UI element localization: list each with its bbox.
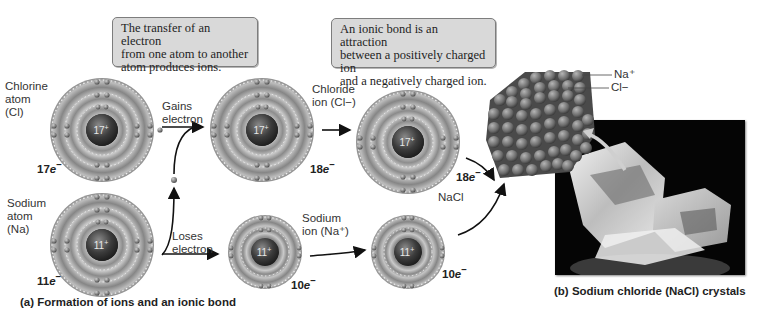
count: 18 xyxy=(310,163,323,175)
ionic-bond-diagram: The transfer of an electron from one ato… xyxy=(0,0,763,314)
sodium-atom-label: Sodium atom (Na) xyxy=(7,197,46,236)
sign: − xyxy=(310,275,316,286)
chloride-ion-label: Chloride ion (Cl−) xyxy=(312,83,356,109)
chloride-electron-count: 18e− xyxy=(310,159,335,175)
sign: − xyxy=(56,159,62,170)
label-line: (Cl) xyxy=(5,106,48,119)
caption-a: (a) Formation of ions and an ionic bond xyxy=(20,296,236,308)
transferred-electron-icon xyxy=(171,177,177,183)
label-line: ion (Na⁺) xyxy=(302,225,349,238)
count: 10 xyxy=(442,268,455,280)
label-line: atom xyxy=(7,210,46,223)
label-line: Loses xyxy=(172,230,213,243)
sodium-electron-count: 11e− xyxy=(37,271,61,287)
label-line: Chloride xyxy=(312,83,356,96)
label-line: (Na) xyxy=(7,223,46,236)
nacl-sodium-electron-count: 10e− xyxy=(442,264,467,280)
count: 18 xyxy=(456,171,469,183)
caption-b: (b) Sodium chloride (NaCl) crystals xyxy=(554,285,746,297)
label-line: electron xyxy=(162,113,203,126)
loses-electron-label: Loses electron xyxy=(172,230,213,256)
label-line: Sodium xyxy=(302,212,349,225)
count: 11 xyxy=(37,275,49,287)
count: 17 xyxy=(37,163,50,175)
nacl-chloride-electron-count: 18e− xyxy=(456,167,481,183)
sodium-to-lattice-arrow xyxy=(458,184,504,235)
label-line: Chlorine xyxy=(5,80,48,93)
diagram-graphics: 17+ 11+ 17+ 11+ 17+ 11+ xyxy=(0,0,763,314)
sign: − xyxy=(329,159,335,170)
gains-electron-label: Gains electron xyxy=(162,100,203,126)
lattice-cl-label: Cl− xyxy=(611,81,629,94)
sign: − xyxy=(475,167,481,178)
sign: − xyxy=(461,264,467,275)
label-line: Gains xyxy=(162,100,203,113)
sign: − xyxy=(56,271,62,282)
photo-to-lattice-arrow xyxy=(588,134,625,170)
nacl-crystal-lattice xyxy=(486,70,612,178)
label-line: electron xyxy=(172,243,213,256)
lattice-na-label: Na⁺ xyxy=(614,68,635,81)
sodium-ion-label: Sodium ion (Na⁺) xyxy=(302,212,349,238)
label-line: Sodium xyxy=(7,197,46,210)
sodium-ion-electron-count: 10e− xyxy=(291,275,316,291)
sodium-to-nacl-arrow xyxy=(310,250,365,256)
count: 10 xyxy=(291,279,304,291)
chlorine-atom-label: Chlorine atom (Cl) xyxy=(5,80,48,119)
label-line: ion (Cl−) xyxy=(312,96,356,109)
chlorine-electron-count: 17e− xyxy=(37,159,62,175)
nacl-label: NaCl xyxy=(438,191,464,204)
label-line: atom xyxy=(5,93,48,106)
electron-gained-curve xyxy=(174,127,194,174)
